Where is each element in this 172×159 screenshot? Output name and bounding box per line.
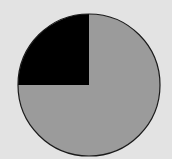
pie-chart bbox=[0, 0, 172, 159]
pie-slice bbox=[18, 14, 89, 85]
